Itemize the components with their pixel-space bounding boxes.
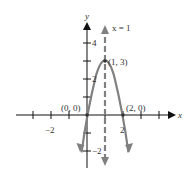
origin-label: (0, 0) [61,103,81,113]
point-root-2 [121,113,125,117]
point-vertex [103,59,107,63]
xtick-label-neg2: −2 [45,125,55,135]
y-axis-label: y [84,11,89,21]
root-label: (2, 0) [126,103,146,113]
ytick-label-neg2: −2 [92,146,102,156]
dashed-arrow-down-icon [101,157,109,166]
x-axis-label: x [177,110,182,120]
ytick-label-4: 4 [92,38,97,48]
vertex-label: (1, 3) [108,57,128,67]
xtick-label-2: 2 [120,125,125,135]
point-origin [85,113,89,117]
ytick-label-2: 2 [92,74,97,84]
dashed-arrow-up-icon [101,25,109,34]
line-label: x = 1 [112,23,131,33]
parabola-graph: y x x = 1 (1, 3) (0, 0) (2, 0) −2 2 4 2 … [0,0,194,181]
